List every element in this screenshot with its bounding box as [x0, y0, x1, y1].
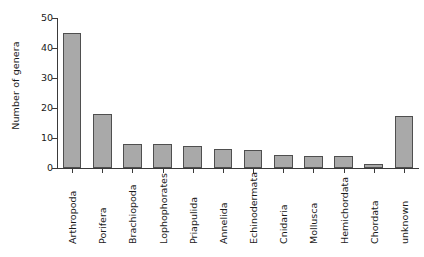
y-axis-tick-label: 10 — [23, 133, 53, 143]
bar — [364, 164, 383, 169]
y-axis-tick-mark — [52, 18, 57, 19]
y-axis-title-text: Number of genera — [10, 41, 21, 129]
y-axis-tick-label: 40 — [23, 43, 53, 53]
bar — [93, 114, 112, 168]
x-axis-tick-label-text: Brachiopoda — [128, 184, 138, 244]
figure-caption — [16, 249, 416, 257]
y-axis-line — [57, 18, 58, 168]
bar — [123, 144, 142, 168]
x-axis-tick-label-text: unknown — [400, 201, 410, 244]
y-axis-tick-mark — [52, 168, 57, 169]
x-axis-tick-labels: ArthropodaPoriferaBrachiopodaLophophorat… — [57, 172, 419, 244]
x-axis-tick-label-text: Annelida — [219, 202, 229, 244]
x-axis-tick-label-text: Echinodermata — [249, 172, 259, 244]
y-axis-tick-mark — [52, 48, 57, 49]
bar — [214, 149, 233, 169]
plot-area: 01020304050 — [57, 18, 419, 168]
x-axis-tick-label-text: Hemichordata — [340, 177, 350, 244]
y-axis-tick-mark — [52, 108, 57, 109]
x-axis-tick-label-text: Arthropoda — [68, 191, 78, 244]
bar-chart-figure: Number of genera 01020304050 ArthropodaP… — [0, 0, 424, 257]
x-axis-tick-label: unknown — [400, 172, 424, 244]
bar — [334, 156, 353, 168]
x-axis-tick-label-text: Chordata — [370, 200, 380, 244]
y-axis-tick-label: 30 — [23, 73, 53, 83]
bar — [304, 156, 323, 168]
bar — [395, 116, 414, 169]
x-axis-tick-label-text: Mollusca — [309, 203, 319, 244]
y-axis-tick-labels: 01020304050 — [23, 18, 53, 168]
x-axis-tick-label-text: Cnidaria — [279, 204, 289, 244]
x-axis-tick-label-text: Porifera — [98, 207, 108, 244]
bar — [63, 33, 82, 168]
bar — [153, 144, 172, 168]
x-axis-tick-label-text: Priapulida — [189, 197, 199, 244]
y-axis-tick-mark — [52, 78, 57, 79]
y-axis-tick-label: 50 — [23, 13, 53, 23]
y-axis-tick-label: 0 — [23, 163, 53, 173]
bar — [244, 150, 263, 168]
bar — [274, 155, 293, 169]
y-axis-tick-label: 20 — [23, 103, 53, 113]
x-axis-tick-label-text: Lophophorates — [159, 173, 169, 244]
y-axis-tick-mark — [52, 138, 57, 139]
y-axis-title: Number of genera — [6, 0, 24, 170]
x-axis-line — [57, 168, 419, 169]
bar — [183, 146, 202, 169]
